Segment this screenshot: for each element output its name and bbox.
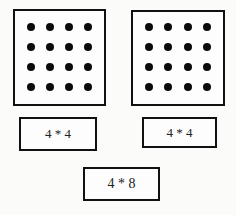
left-dot-array-box: [13, 9, 106, 106]
dot: [203, 83, 211, 91]
dot: [65, 63, 73, 71]
dot: [46, 63, 54, 71]
dot: [184, 43, 192, 51]
left-expression-box: 4 * 4: [19, 117, 97, 151]
dot: [164, 43, 172, 51]
dot: [145, 23, 153, 31]
dot: [46, 43, 54, 51]
right-expression-box: 4 * 4: [142, 117, 217, 148]
dot: [27, 43, 35, 51]
dot: [203, 23, 211, 31]
dot: [145, 63, 153, 71]
left-expression-label: 4 * 4: [45, 126, 71, 142]
bottom-expression-box: 4 * 8: [83, 167, 160, 201]
dot: [184, 23, 192, 31]
dot: [164, 63, 172, 71]
dot: [46, 83, 54, 91]
bottom-expression-label: 4 * 8: [108, 176, 136, 192]
dot: [164, 83, 172, 91]
dot: [46, 23, 54, 31]
dot: [184, 63, 192, 71]
dot: [84, 83, 92, 91]
right-dot-array-box: [131, 10, 225, 106]
dot: [27, 23, 35, 31]
dot: [84, 23, 92, 31]
dot: [184, 83, 192, 91]
dot: [84, 63, 92, 71]
dot: [27, 83, 35, 91]
dot: [145, 83, 153, 91]
dot: [65, 23, 73, 31]
dot: [203, 43, 211, 51]
left-dot-grid: [21, 17, 98, 97]
dot: [84, 43, 92, 51]
dot: [203, 63, 211, 71]
dot: [27, 63, 35, 71]
dot: [65, 83, 73, 91]
right-dot-grid: [139, 17, 217, 97]
dot: [145, 43, 153, 51]
dot: [164, 23, 172, 31]
dot: [65, 43, 73, 51]
right-expression-label: 4 * 4: [167, 125, 193, 141]
